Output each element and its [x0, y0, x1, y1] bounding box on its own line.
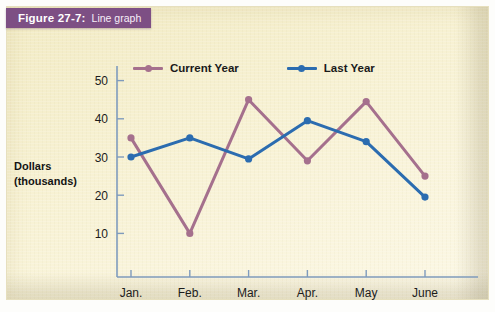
y-tick-labels: 1020304050 [95, 74, 109, 241]
y-tick-label: 50 [95, 74, 109, 88]
data-point-marker [245, 155, 252, 162]
data-point-marker [363, 98, 370, 105]
x-tick-label: May [355, 286, 378, 300]
y-axis-group [117, 66, 124, 277]
series-line [131, 100, 425, 234]
data-point-marker [304, 157, 311, 164]
line-chart-plot: 1020304050 Jan.Feb.Mar.Apr.MayJune [0, 0, 495, 312]
data-point-marker [421, 194, 428, 201]
data-point-marker [186, 230, 193, 237]
x-tick-label: June [412, 286, 438, 300]
x-tick-labels: Jan.Feb.Mar.Apr.MayJune [120, 286, 439, 300]
y-tick-label: 10 [95, 227, 109, 241]
series-group [127, 96, 428, 237]
data-point-marker [304, 117, 311, 124]
data-point-marker [186, 134, 193, 141]
x-tick-label: Feb. [178, 286, 202, 300]
y-tick-label: 30 [95, 151, 109, 165]
data-point-marker [127, 134, 134, 141]
y-tick-label: 40 [95, 112, 109, 126]
data-point-marker [421, 173, 428, 180]
data-point-marker [245, 96, 252, 103]
x-tick-label: Apr. [297, 286, 318, 300]
figure-root: Figure 27-7: Line graph Current Year Las… [0, 0, 495, 312]
x-tick-label: Jan. [120, 286, 143, 300]
x-tick-label: Mar. [237, 286, 260, 300]
x-axis-group [117, 270, 478, 277]
y-tick-label: 20 [95, 189, 109, 203]
data-point-marker [127, 153, 134, 160]
data-point-marker [363, 138, 370, 145]
